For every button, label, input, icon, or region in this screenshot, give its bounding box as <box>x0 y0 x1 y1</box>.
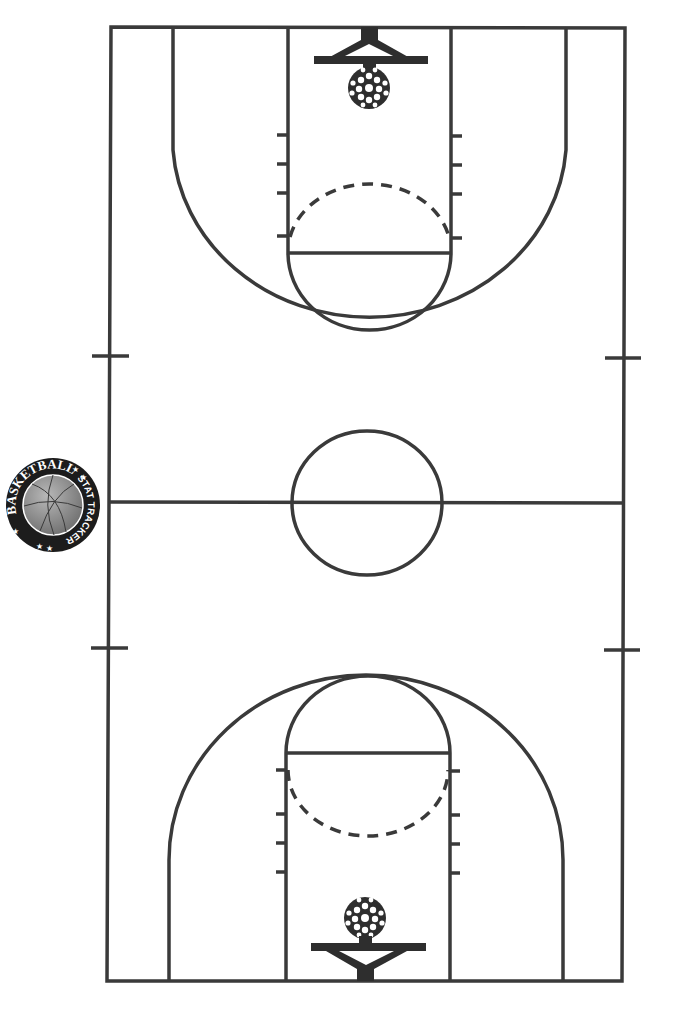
half-court-line <box>110 502 623 503</box>
basketball-stat-tracker-logo: BASKETBALL STAT TRACKER ★ ★ ★ ★ ★ <box>2 456 104 554</box>
basket-top <box>314 27 428 109</box>
basket-bottom <box>311 897 426 981</box>
svg-text:★: ★ <box>80 473 87 482</box>
free-throw-circle-bottom <box>286 676 450 753</box>
free-throw-circle-dashed-top <box>290 184 449 237</box>
free-throw-circle-dashed-bottom <box>288 770 448 836</box>
svg-text:★: ★ <box>72 465 79 474</box>
svg-text:★: ★ <box>36 542 43 551</box>
svg-text:★: ★ <box>46 544 53 553</box>
net-bottom <box>344 897 386 939</box>
net-top <box>348 67 390 109</box>
backboard-bottom <box>311 943 426 951</box>
svg-text:★: ★ <box>12 527 19 536</box>
backboard-top <box>314 56 428 64</box>
